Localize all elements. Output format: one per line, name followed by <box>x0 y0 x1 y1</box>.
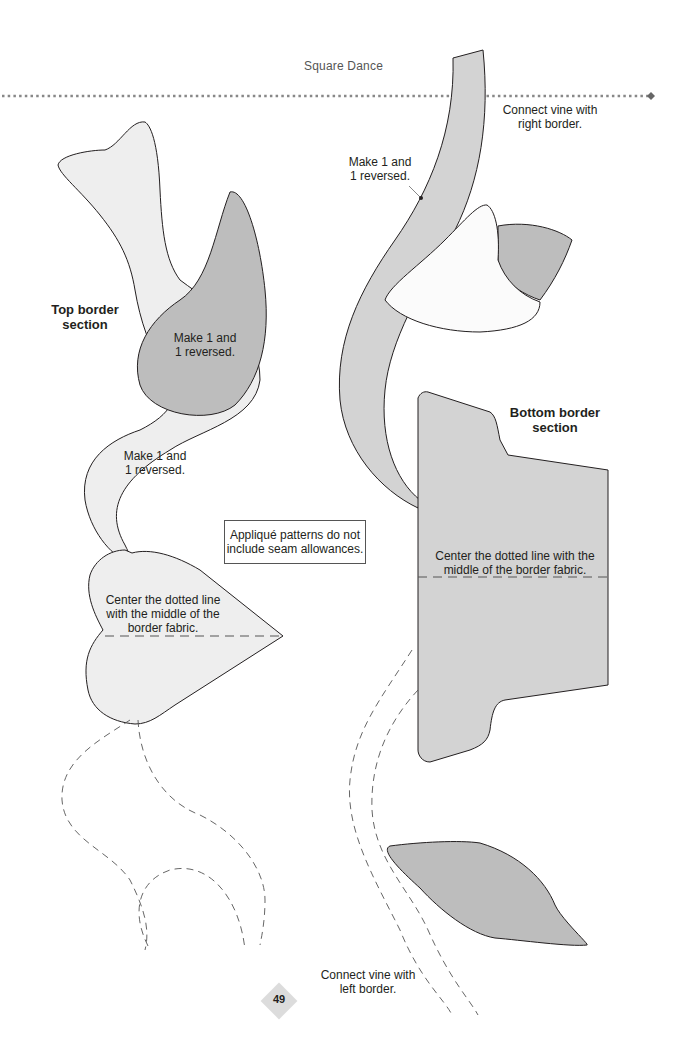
make-reversed-dark-label: Make 1 and 1 reversed. <box>165 331 245 359</box>
label-line: with the middle of the <box>93 607 233 621</box>
label-line: 1 reversed. <box>115 463 195 477</box>
label-line: section <box>40 317 130 332</box>
label-line: Connect vine with <box>318 968 418 982</box>
connect-left-label: Connect vine with left border. <box>318 968 418 996</box>
label-line: right border. <box>490 117 610 131</box>
pointer-line <box>409 186 420 197</box>
leaf-shape <box>387 842 587 946</box>
label-line: Top border <box>40 302 130 317</box>
page-header-title: Square Dance <box>0 59 687 73</box>
pointer-dot <box>419 196 423 200</box>
page-number: 49 <box>266 993 292 1005</box>
label-line: border fabric. <box>93 621 233 635</box>
top-border-section-label: Top border section <box>40 302 130 332</box>
label-line: section <box>500 420 610 435</box>
center-right-label: Center the dotted line with the middle o… <box>420 549 610 577</box>
label-line: include seam allowances. <box>225 542 365 556</box>
label-line: Make 1 and <box>165 331 245 345</box>
label-line: Make 1 and <box>115 449 195 463</box>
label-line: Connect vine with <box>490 103 610 117</box>
label-line: Center the dotted line with the <box>420 549 610 563</box>
make-reversed-light-label: Make 1 and 1 reversed. <box>115 449 195 477</box>
center-left-label: Center the dotted line with the middle o… <box>93 593 233 635</box>
label-line: Center the dotted line <box>93 593 233 607</box>
bottom-border-section-label: Bottom border section <box>500 405 610 435</box>
diamond-ornament-icon <box>647 92 655 100</box>
label-line: Bottom border <box>500 405 610 420</box>
label-line: Make 1 and <box>340 155 420 169</box>
label-line: left border. <box>318 982 418 996</box>
label-line: 1 reversed. <box>340 169 420 183</box>
make-reversed-vine-label: Make 1 and 1 reversed. <box>340 155 420 183</box>
seam-allowance-note: Appliqué patterns do not include seam al… <box>224 520 366 564</box>
label-line: Appliqué patterns do not <box>225 528 365 542</box>
label-line: 1 reversed. <box>165 345 245 359</box>
connect-right-label: Connect vine with right border. <box>490 103 610 131</box>
label-line: middle of the border fabric. <box>420 563 610 577</box>
heart-shape <box>86 550 283 724</box>
